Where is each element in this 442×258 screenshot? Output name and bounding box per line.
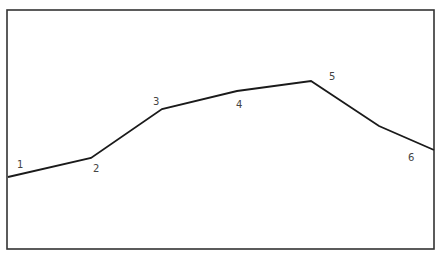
diagram-frame	[7, 10, 434, 249]
point-label-1: 1	[17, 159, 23, 170]
profile-diagram: 1 2 3 4 5 6	[0, 0, 442, 258]
point-label-3: 3	[153, 96, 159, 107]
point-label-2: 2	[93, 163, 99, 174]
point-labels: 1 2 3 4 5 6	[17, 71, 414, 174]
point-label-6: 6	[408, 152, 414, 163]
point-label-5: 5	[329, 71, 335, 82]
profile-line	[8, 81, 434, 177]
point-label-4: 4	[236, 99, 242, 110]
